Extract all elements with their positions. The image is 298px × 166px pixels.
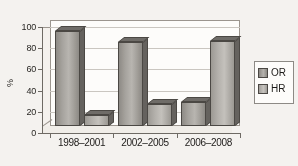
x-tick-label-1: 1998–2001 — [58, 137, 105, 148]
bar-hr-2 — [147, 104, 172, 126]
legend-label-or: OR — [271, 68, 286, 78]
x-axis-line — [42, 133, 240, 134]
y-tick-80 — [38, 48, 43, 49]
x-tick-label-2: 2002–2005 — [121, 137, 168, 148]
plot-area — [42, 20, 240, 133]
legend-swatch-or-icon — [258, 68, 268, 78]
bar-side-face — [80, 27, 85, 126]
bar-front-face — [181, 102, 206, 126]
plot-floor — [42, 126, 232, 133]
bar-front-face — [55, 31, 80, 126]
y-axis-tick-labels: 100 80 60 40 20 0 — [0, 20, 36, 133]
bar-front-face — [210, 41, 235, 126]
bar-side-face — [172, 100, 177, 126]
plot-side-wall — [42, 27, 50, 133]
legend-label-hr: HR — [271, 84, 285, 94]
bar-or-3 — [181, 102, 206, 126]
bar-hr-1 — [84, 115, 109, 126]
bar-side-face — [235, 37, 240, 126]
y-tick-label-80: 80 — [26, 43, 36, 53]
x-axis-tick-labels: 1998–20012002–20052006–2008 — [34, 137, 254, 155]
y-tick-40 — [38, 91, 43, 92]
y-tick-label-100: 100 — [22, 22, 36, 32]
x-tick-label-3: 2006–2008 — [185, 137, 232, 148]
y-tick-60 — [38, 69, 43, 70]
bar-hr-3 — [210, 41, 235, 126]
y-tick-100 — [38, 27, 43, 28]
y-tick-label-20: 20 — [26, 107, 36, 117]
bar-front-face — [118, 42, 143, 126]
y-tick-label-40: 40 — [26, 86, 36, 96]
bar-or-1 — [55, 31, 80, 126]
bar-chart: % 100 80 60 40 20 0 1998–20012002–200520… — [0, 0, 298, 166]
chart-legend: OR HR — [254, 61, 294, 104]
bar-or-2 — [118, 42, 143, 126]
y-axis-line — [42, 27, 43, 133]
bar-front-face — [147, 104, 172, 126]
legend-swatch-hr-icon — [258, 84, 268, 94]
y-tick-label-60: 60 — [26, 64, 36, 74]
bar-top-face — [55, 26, 86, 31]
legend-item-or[interactable]: OR — [258, 65, 291, 81]
legend-item-hr[interactable]: HR — [258, 81, 291, 97]
bar-front-face — [84, 115, 109, 126]
y-tick-20 — [38, 112, 43, 113]
